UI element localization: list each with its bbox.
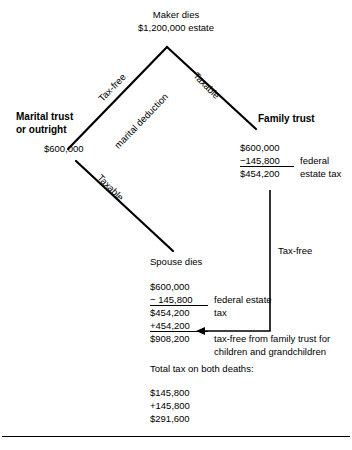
family-trust-row: $600,000 xyxy=(240,142,341,155)
maker-dies-label: Maker dies xyxy=(0,8,352,21)
spouse-dies-heading: Spouse dies xyxy=(150,256,202,268)
branch-line-left xyxy=(68,47,167,149)
family-trust-row: $454,200 estate tax xyxy=(240,168,341,181)
family-trust-row: −145,800 federal xyxy=(240,155,341,168)
totals-figures: $145,800 +145,800 $291,600 xyxy=(150,386,190,425)
vertical-line-label-taxfree: Tax-free xyxy=(278,245,312,257)
family-trust-amount-tax: −145,800 xyxy=(240,155,294,167)
spouse-row: +454,200 xyxy=(150,320,330,333)
spouse-row: $600,000 xyxy=(150,281,330,294)
maker-estate-amount: $1,200,000 estate xyxy=(0,21,352,34)
spouse-row: − 145,800 federal estate xyxy=(150,294,330,307)
estate-planning-diagram: Maker dies $1,200,000 estate Tax-free ma… xyxy=(0,0,352,450)
marital-trust-amount: $600,000 xyxy=(44,143,84,155)
totals-row: $291,600 xyxy=(150,412,190,425)
left-branch-label-taxfree: Tax-free xyxy=(96,71,128,103)
spouse-figures: $600,000 − 145,800 federal estate $454,2… xyxy=(150,281,330,359)
marital-trust-heading-line1: Marital trust xyxy=(16,110,73,123)
spouse-row: $454,200 tax xyxy=(150,307,330,320)
spouse-amount-total: $908,200 xyxy=(150,333,208,344)
spouse-row: $908,200 tax-free from family trust for xyxy=(150,333,330,346)
family-trust-label-federal: federal xyxy=(300,155,329,166)
totals-row: +145,800 xyxy=(150,399,190,412)
spouse-label-federal-estate: federal estate xyxy=(214,294,272,305)
marital-trust-heading: Marital trust or outright xyxy=(16,110,73,136)
spouse-label-total-line2: children and grandchildren xyxy=(214,346,326,357)
totals-label: Total tax on both deaths: xyxy=(150,363,254,375)
spouse-amount-tax: − 145,800 xyxy=(150,294,208,306)
spouse-branch-label-taxable: Taxable xyxy=(95,172,126,203)
spouse-row: children and grandchildren xyxy=(150,346,330,359)
family-trust-heading: Family trust xyxy=(258,113,315,125)
bottom-divider xyxy=(2,436,350,437)
diagram-connector-lines xyxy=(0,0,352,450)
right-branch-label-taxable: Taxable xyxy=(191,70,222,101)
family-trust-label-estate-tax: estate tax xyxy=(300,168,341,179)
maker-dies-block: Maker dies $1,200,000 estate xyxy=(0,8,352,34)
marital-trust-heading-line2: or outright xyxy=(16,123,73,136)
spouse-label-tax: tax xyxy=(214,307,227,318)
family-trust-amount-net: $454,200 xyxy=(240,168,294,179)
totals-row: $145,800 xyxy=(150,386,190,399)
spouse-amount-added: +454,200 xyxy=(150,320,208,332)
spouse-amount-gross: $600,000 xyxy=(150,281,208,292)
family-trust-figures: $600,000 −145,800 federal $454,200 estat… xyxy=(240,142,341,181)
spouse-amount-net: $454,200 xyxy=(150,307,208,318)
spouse-label-total: tax-free from family trust for xyxy=(214,333,330,344)
family-trust-amount-gross: $600,000 xyxy=(240,142,294,153)
branch-line-spouse xyxy=(76,161,173,251)
left-branch-label-marital-deduction: marital deduction xyxy=(112,91,170,151)
